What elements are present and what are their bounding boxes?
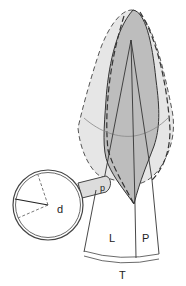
probe-handle xyxy=(78,176,111,198)
label-L: L xyxy=(109,232,115,244)
flare-left xyxy=(84,190,96,252)
label-P: P xyxy=(142,232,149,244)
arc-L-P xyxy=(84,251,159,257)
label-T: T xyxy=(119,269,126,281)
flare-mid xyxy=(135,205,136,258)
label-p-small: p xyxy=(100,183,105,193)
flare-right xyxy=(152,180,159,254)
tooth-diagram: p d L P T xyxy=(0,0,186,286)
label-d: d xyxy=(57,203,63,215)
